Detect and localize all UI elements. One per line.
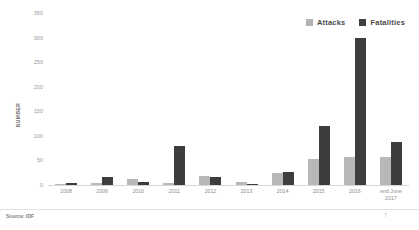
bar-attacks-2010[interactable]: [127, 179, 138, 185]
bar-attacks-2016[interactable]: [344, 157, 355, 185]
x-axis-labels: 200820092010201120122013201420152016end …: [48, 188, 409, 202]
bar-group: [228, 13, 264, 185]
x-axis-line: [48, 185, 409, 186]
bar-fatalities-2014[interactable]: [283, 172, 294, 185]
bar-fatalities-2010[interactable]: [138, 182, 149, 185]
bar-fatalities-2016[interactable]: [355, 38, 366, 185]
bar-fatalities-2011[interactable]: [174, 146, 185, 185]
bar-fatalities-2009[interactable]: [102, 177, 113, 185]
x-axis-label: 2014: [265, 188, 301, 202]
x-axis-label: 2009: [84, 188, 120, 202]
bar-attacks-2014[interactable]: [272, 173, 283, 185]
y-axis-title: NUMBER: [15, 103, 21, 127]
x-axis-label: 2012: [192, 188, 228, 202]
bar-group: [48, 13, 84, 185]
bar-fatalities-2008[interactable]: [66, 183, 77, 185]
x-axis-label: 2011: [156, 188, 192, 202]
bar-attacks-2013[interactable]: [236, 182, 247, 185]
y-axis-tick-label: 100: [34, 133, 43, 139]
x-axis-label: 2008: [48, 188, 84, 202]
chart-page: Attacks Fatalities NUMBER 05010015020025…: [0, 0, 419, 230]
bar-group: [120, 13, 156, 185]
x-axis-label: end June 2017: [373, 188, 409, 202]
x-axis-label: 2016: [337, 188, 373, 202]
y-axis-tick-label: 0: [40, 182, 43, 188]
bar-attacks-2015[interactable]: [308, 159, 319, 185]
bar-attacks-2011[interactable]: [163, 183, 174, 185]
x-axis-label: 2015: [301, 188, 337, 202]
x-axis-label: 2013: [228, 188, 264, 202]
bar-group: [301, 13, 337, 185]
bar-fatalities-2012[interactable]: [210, 177, 221, 185]
bar-attacks-2008[interactable]: [55, 184, 66, 185]
bar-attacks-2009[interactable]: [91, 183, 102, 185]
y-axis-tick-label: 150: [34, 108, 43, 114]
bar-attacks-2012[interactable]: [199, 176, 210, 185]
bar-group: [265, 13, 301, 185]
bar-fatalities-end-June-2017[interactable]: [391, 142, 402, 185]
bar-fatalities-2013[interactable]: [247, 184, 258, 185]
plot-area: 050100150200250300350: [48, 13, 409, 186]
bar-groups: [48, 13, 409, 185]
bar-group: [373, 13, 409, 185]
y-axis-tick-label: 50: [37, 157, 43, 163]
bar-group: [84, 13, 120, 185]
y-axis-tick-label: 250: [34, 59, 43, 65]
x-axis-label: 2010: [120, 188, 156, 202]
bar-group: [156, 13, 192, 185]
y-axis-tick-label: 200: [34, 84, 43, 90]
page-mark: 7: [384, 212, 387, 218]
y-axis-tick-label: 300: [34, 35, 43, 41]
y-axis-tick-label: 350: [34, 10, 43, 16]
footer-divider: [0, 209, 419, 210]
bar-group: [337, 13, 373, 185]
bar-fatalities-2015[interactable]: [319, 126, 330, 185]
source-note: Source: IDF: [6, 213, 34, 219]
bar-attacks-end-June-2017[interactable]: [380, 157, 391, 186]
bar-group: [192, 13, 228, 185]
